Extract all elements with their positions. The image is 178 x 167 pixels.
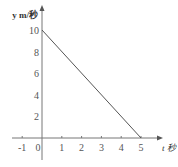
x-tick-label: 3 [99, 142, 104, 153]
y-tick-label: 6 [34, 68, 39, 79]
x-tick-label: 2 [79, 142, 84, 153]
series-line [42, 30, 141, 138]
chart: -1012345246810 t 秒 y m/秒 [0, 0, 178, 167]
x-tick-label: -1 [18, 142, 26, 153]
x-tick-label: 0 [36, 142, 41, 153]
x-tick-label: 1 [59, 142, 64, 153]
y-axis-label: y m/秒 [12, 9, 38, 20]
y-tick-label: 10 [29, 25, 39, 36]
x-tick-label: 5 [139, 142, 144, 153]
x-axis-label: t 秒 [162, 143, 177, 153]
x-axis-arrow-icon [157, 136, 163, 141]
y-tick-label: 8 [34, 47, 39, 58]
y-tick-label: 2 [34, 111, 39, 122]
y-tick-label: 4 [34, 90, 39, 101]
y-axis-arrow-icon [40, 5, 45, 11]
x-tick-label: 4 [119, 142, 124, 153]
